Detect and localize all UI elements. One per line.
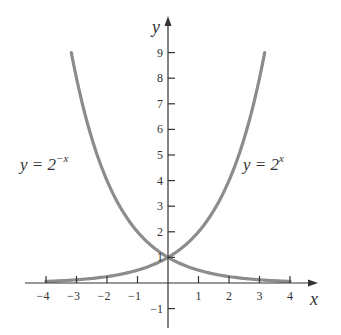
y-tick-label: 7: [157, 97, 163, 111]
y-tick-label: 5: [157, 148, 163, 162]
y-tick-label: 1: [157, 250, 163, 264]
curve-label-base: y = 2: [18, 155, 57, 174]
y-tick-label: 4: [157, 174, 163, 188]
x-tick-label: −4: [37, 289, 50, 303]
curve-label-2-x: y = 2x: [241, 152, 284, 174]
x-tick-label: −3: [67, 289, 80, 303]
x-tick-label: 4: [287, 289, 293, 303]
curve-label-2-neg-x: y = 2−x: [18, 152, 68, 174]
y-axis-arrow-icon: [165, 16, 172, 26]
y-tick-label: 6: [157, 122, 163, 136]
y-tick-label: 9: [157, 46, 163, 60]
y-tick-label: 2: [157, 225, 163, 239]
curve-label-exponent: x: [278, 152, 284, 164]
x-tick-label: 2: [226, 289, 232, 303]
x-tick-label: −1: [128, 289, 141, 303]
x-axis-label: x: [309, 289, 318, 309]
chart: −4−3−2−11234 −1123456789 x y y = 2−x y =…: [0, 0, 341, 335]
x-tick-label: −2: [98, 289, 111, 303]
x-tick-label: 3: [257, 289, 263, 303]
x-axis-arrow-icon: [308, 280, 318, 287]
y-axis-label: y: [150, 17, 160, 37]
curve-label-base: y = 2: [241, 155, 280, 174]
curve-label-exponent: −x: [56, 152, 68, 164]
x-tick-label: 1: [196, 289, 202, 303]
y-ticks: −1123456789: [150, 46, 175, 316]
y-tick-label: −1: [150, 302, 163, 316]
y-tick-label: 3: [157, 199, 163, 213]
y-tick-label: 8: [157, 71, 163, 85]
